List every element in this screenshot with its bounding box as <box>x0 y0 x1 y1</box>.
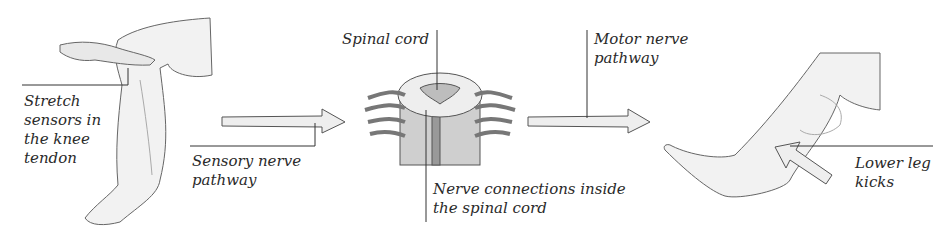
stretch-sensors-label: Stretch sensors in the knee tendon <box>24 92 101 168</box>
label-line: Nerve connections inside <box>433 180 626 199</box>
label-line: Stretch <box>24 92 101 111</box>
label-line: the spinal cord <box>433 199 626 218</box>
spinal-cord-label: Spinal cord <box>342 30 429 49</box>
sensory-nerve-label: Sensory nerve pathway <box>192 152 301 190</box>
label-line: pathway <box>192 171 301 190</box>
label-line: the knee <box>24 130 101 149</box>
lower-leg-label: Lower leg kicks <box>855 154 931 192</box>
sensory-arrow <box>222 109 345 133</box>
label-line: Motor nerve <box>594 30 688 49</box>
label-line: pathway <box>594 49 688 68</box>
label-line: tendon <box>24 149 101 168</box>
label-line: sensors in <box>24 111 101 130</box>
motor-arrow <box>528 109 650 133</box>
label-line: Lower leg <box>855 154 931 173</box>
label-line: Sensory nerve <box>192 152 301 171</box>
motor-nerve-label: Motor nerve pathway <box>594 30 688 68</box>
nerve-connections-label: Nerve connections inside the spinal cord <box>433 180 626 218</box>
spinal-cord-illustration <box>365 73 515 165</box>
label-line: kicks <box>855 173 931 192</box>
kicking-leg-illustration <box>664 53 880 197</box>
